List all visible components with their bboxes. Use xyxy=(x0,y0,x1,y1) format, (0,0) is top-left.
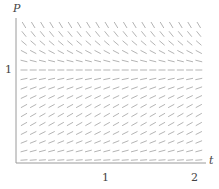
slope-segment xyxy=(104,96,110,99)
slope-segment xyxy=(67,141,74,144)
slope-segment xyxy=(68,31,72,36)
slope-segment xyxy=(159,87,166,89)
slope-segment xyxy=(58,96,64,99)
slope-segment xyxy=(197,22,201,28)
slope-segment xyxy=(196,122,202,125)
slope-segment xyxy=(85,160,92,161)
slope-segment xyxy=(179,22,183,28)
slope-segment xyxy=(76,104,82,107)
slope-segment xyxy=(21,50,27,53)
slope-segment xyxy=(159,150,166,152)
y-tick-label-1: 1 xyxy=(5,64,12,75)
slope-segment xyxy=(122,96,128,99)
slope-segment xyxy=(21,160,28,161)
slope-segment xyxy=(150,96,156,99)
slope-segment xyxy=(140,96,146,99)
slope-segment xyxy=(123,41,128,46)
slope-segment xyxy=(30,122,36,125)
slope-segment xyxy=(87,22,91,28)
slope-segment xyxy=(49,113,55,116)
slope-segment xyxy=(85,122,91,125)
slope-segment xyxy=(48,78,55,79)
slope-segment xyxy=(122,60,129,62)
slope-segment xyxy=(30,87,37,89)
slope-segment xyxy=(150,131,156,134)
slope-segment xyxy=(131,87,138,89)
slope-segment xyxy=(122,150,129,152)
slope-segment xyxy=(39,104,45,107)
slope-segment xyxy=(196,41,201,46)
slope-segment xyxy=(160,22,164,28)
y-axis-label: P xyxy=(13,3,20,14)
slope-segment xyxy=(140,141,147,144)
slope-segment xyxy=(58,113,64,116)
slope-segment xyxy=(122,50,128,53)
slope-segment xyxy=(122,104,128,107)
slope-segment xyxy=(140,160,147,161)
slope-segment xyxy=(39,50,45,53)
slope-segment xyxy=(133,22,137,28)
slope-segment xyxy=(39,150,46,152)
slope-segment xyxy=(187,50,193,53)
slope-segment xyxy=(67,87,74,89)
slope-segment xyxy=(177,122,183,125)
slope-segment xyxy=(149,78,156,79)
slope-segment xyxy=(59,22,63,28)
slope-segment xyxy=(76,78,83,79)
slope-segment xyxy=(30,160,37,161)
slope-segment xyxy=(85,104,91,107)
slope-segment xyxy=(40,31,44,36)
slope-segment xyxy=(21,141,28,144)
slope-segment xyxy=(57,78,64,79)
slope-segment xyxy=(149,150,156,152)
slope-segment xyxy=(177,60,184,62)
slope-segment xyxy=(168,50,174,53)
slope-segment xyxy=(150,113,156,116)
slope-segment xyxy=(113,141,120,144)
slope-segment xyxy=(49,31,53,36)
slope-segment xyxy=(85,78,92,79)
slope-segment xyxy=(151,22,155,28)
slope-segment xyxy=(104,122,110,125)
slope-segment xyxy=(123,22,127,28)
slope-segment xyxy=(196,96,202,99)
slope-segment xyxy=(94,141,101,144)
slope-segment xyxy=(177,50,183,53)
slope-segment xyxy=(131,104,137,107)
slope-segment xyxy=(58,41,63,46)
slope-segment xyxy=(104,104,110,107)
slope-segment xyxy=(169,22,173,28)
slope-segment xyxy=(159,160,166,161)
slope-segment xyxy=(149,60,156,62)
slope-segment xyxy=(103,78,110,79)
slope-segment xyxy=(105,22,109,28)
slope-segment xyxy=(141,50,147,53)
slope-segment xyxy=(150,41,155,46)
slope-segment xyxy=(177,104,183,107)
slope-segment xyxy=(131,96,137,99)
slope-segment xyxy=(58,104,64,107)
slope-segment xyxy=(58,122,64,125)
slope-segment xyxy=(21,41,26,46)
slope-segment xyxy=(94,96,100,99)
slope-segment xyxy=(67,104,73,107)
slope-segment xyxy=(39,122,45,125)
slope-segment xyxy=(94,87,101,89)
slope-segment xyxy=(159,122,165,125)
slope-segment xyxy=(76,131,82,134)
slope-segment xyxy=(86,31,90,36)
slope-segment xyxy=(168,150,175,152)
slope-segment xyxy=(39,160,46,161)
slope-segment xyxy=(159,96,165,99)
slope-segment xyxy=(159,41,164,46)
slope-segment xyxy=(67,78,74,79)
slope-segment xyxy=(67,113,73,116)
slope-segment xyxy=(85,87,92,89)
slope-segment xyxy=(177,160,184,161)
slope-segment xyxy=(177,87,184,89)
slope-segment xyxy=(113,60,120,62)
slope-segment xyxy=(76,141,83,144)
slope-segment xyxy=(132,31,136,36)
slope-segment xyxy=(186,87,193,89)
slope-segment xyxy=(141,41,146,46)
